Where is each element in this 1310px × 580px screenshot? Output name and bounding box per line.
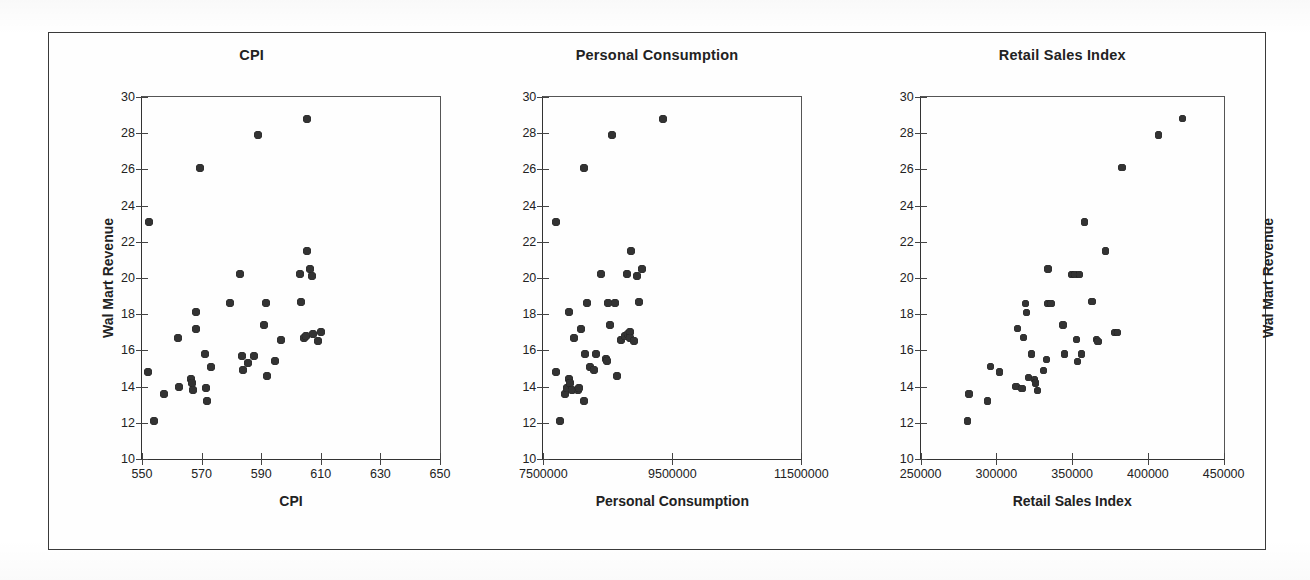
y-tick-label: 28 [121,126,135,140]
scatter-point [984,397,991,404]
scatter-point [260,321,268,329]
y-tick-mark [136,387,148,388]
y-tick-label: 20 [900,271,914,285]
x-axis-title-retail-sales-index: Retail Sales Index [921,493,1224,509]
y-tick-mark [537,97,549,98]
y-tick-label: 20 [121,271,135,285]
x-axis-title-cpi: CPI [142,493,440,509]
y-tick-label: 10 [522,452,536,466]
y-tick-mark [537,387,549,388]
x-tick-mark [996,453,997,465]
x-tick-label: 450000 [1203,467,1245,481]
x-tick-mark [801,453,802,465]
scatter-point [150,417,158,425]
scatter-point [201,350,209,358]
scatter-point [1018,385,1025,392]
scatter-point [597,270,605,278]
y-axis-title-cpi: Wal Mart Revenue [100,218,116,338]
scatter-point [1014,325,1021,332]
y-tick-mark [136,278,148,279]
y-tick-label: 20 [522,271,536,285]
scatter-point [145,218,153,226]
scatter-point [987,363,994,370]
panel-personal-consumption: Personal Consumption Personal Consumptio… [454,33,859,549]
y-tick-label: 12 [522,416,536,430]
scatter-point [613,372,621,380]
scatter-point [1074,358,1081,365]
scatter-point [308,272,316,280]
scatter-points-personal-consumption [543,97,801,459]
scatter-point [296,270,304,278]
panel-row: CPI Wal Mart Revenue CPI 101214161820222… [49,33,1265,549]
y-tick-mark [136,350,148,351]
scatter-point [160,390,168,398]
scatter-point [303,247,311,255]
x-tick-mark [921,453,922,465]
y-tick-mark [915,423,927,424]
x-tick-mark [202,453,203,465]
scatter-point [1032,379,1039,386]
scatter-point [1179,115,1186,122]
scatter-point [1076,271,1083,278]
x-tick-mark [1224,453,1225,465]
x-tick-mark [543,453,544,465]
scatter-point [1028,350,1035,357]
scatter-point [244,359,252,367]
scatter-point [565,308,573,316]
y-tick-label: 30 [522,90,536,104]
y-tick-label: 22 [522,235,536,249]
x-tick-label: 400000 [1127,467,1169,481]
y-tick-mark [915,169,927,170]
scatter-point [303,115,311,123]
scatter-point [581,350,589,358]
y-tick-label: 22 [900,235,914,249]
panel-cpi: CPI Wal Mart Revenue CPI 101214161820222… [49,33,454,549]
y-tick-mark [136,206,148,207]
x-tick-mark [142,453,143,465]
y-tick-label: 30 [121,90,135,104]
x-tick-mark [672,453,673,465]
y-tick-label: 28 [900,126,914,140]
scatter-point [297,298,305,306]
scatter-points-cpi [142,97,440,459]
scatter-point [250,352,258,360]
scatter-point [239,366,247,374]
y-tick-mark [915,97,927,98]
scatter-point [1034,387,1041,394]
plot-wrap-personal-consumption: Personal Consumption 1012141618202224262… [454,33,859,549]
x-tick-label: 590 [251,467,272,481]
y-tick-mark [136,133,148,134]
scatter-points-retail-sales-index [921,97,1224,459]
y-tick-mark [136,423,148,424]
plot-wrap-cpi: Wal Mart Revenue CPI 1012141618202224262… [49,33,454,549]
y-tick-mark [915,133,927,134]
y-tick-label: 10 [900,452,914,466]
y-tick-label: 18 [900,307,914,321]
x-axis-title-personal-consumption: Personal Consumption [543,493,801,509]
scatter-point [254,131,262,139]
plot-area-cpi: Wal Mart Revenue CPI 1012141618202224262… [141,96,441,460]
scatter-point [236,270,244,278]
scatter-point [1073,336,1080,343]
scatter-point [1044,265,1051,272]
y-tick-mark [915,242,927,243]
scatter-point [277,336,285,344]
y-tick-label: 26 [522,162,536,176]
x-tick-label: 550 [132,467,153,481]
scatter-point [262,299,270,307]
scatter-point [174,334,182,342]
y-tick-mark [915,206,927,207]
x-tick-label: 350000 [1051,467,1093,481]
scatter-point [1040,367,1047,374]
scatter-point [570,334,578,342]
x-tick-mark [380,453,381,465]
y-tick-label: 14 [121,380,135,394]
y-tick-mark [537,278,549,279]
y-tick-mark [915,314,927,315]
scatter-point [592,350,600,358]
plot-wrap-retail-sales-index: Wal Mart Revenue Retail Sales Index 1012… [860,33,1265,549]
x-tick-label: 250000 [900,467,942,481]
y-tick-mark [136,169,148,170]
scatter-point [590,366,598,374]
y-tick-label: 18 [121,307,135,321]
